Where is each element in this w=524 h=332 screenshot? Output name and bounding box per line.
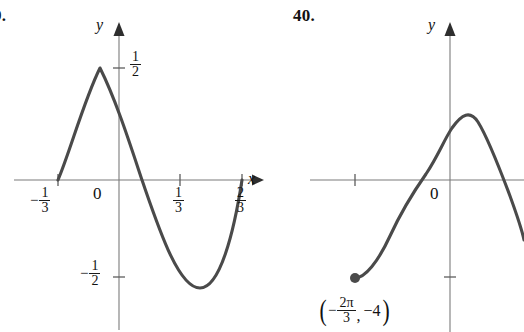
x-axis-label: x <box>248 170 255 188</box>
figure-panel-right: 40. y 0 ( − 2π 3 , −4 ) <box>262 0 524 332</box>
minus-sign: − <box>80 266 88 281</box>
x-tick-label-one-third: 1 3 <box>173 186 184 216</box>
fraction: 1 3 <box>39 186 50 216</box>
y-axis-arrow-icon <box>114 22 125 36</box>
y-axis-label: y <box>96 16 103 34</box>
sine-curve <box>58 68 242 288</box>
minus-sign: − <box>328 303 336 318</box>
close-paren: ) <box>382 298 389 323</box>
comma: , <box>357 308 361 326</box>
fraction: 2π 3 <box>337 296 355 326</box>
y-axis-label: y <box>428 16 435 34</box>
x-tick-label-two-thirds: 2 3 <box>235 186 246 216</box>
sinusoid-curve <box>355 115 524 278</box>
fraction: 1 2 <box>130 50 141 80</box>
point-annotation-label: ( − 2π 3 , −4 ) <box>318 296 391 326</box>
y-tick-label-neg-one-half: − 1 2 <box>80 259 100 289</box>
fraction: 2 3 <box>235 186 246 216</box>
y-tick-label-one-half: 1 2 <box>130 50 141 80</box>
origin-label: 0 <box>93 184 102 204</box>
fraction: 1 3 <box>173 186 184 216</box>
x-tick-label-neg-one-third: − 1 3 <box>30 186 50 216</box>
origin-label: 0 <box>430 184 439 204</box>
y-axis-arrow-icon <box>445 22 456 36</box>
fraction: 1 2 <box>89 259 100 289</box>
figure-panel-left: 9. y x 0 − 1 3 1 3 2 <box>0 0 262 332</box>
minus-sign: − <box>30 193 38 208</box>
graph-40-plot <box>262 0 524 332</box>
endpoint-dot-marker <box>350 273 360 283</box>
y-value: −4 <box>364 303 381 319</box>
open-paren: ( <box>319 298 326 323</box>
